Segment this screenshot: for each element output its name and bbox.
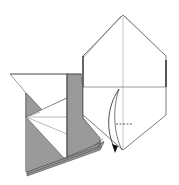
arrowhead-icon	[112, 144, 118, 153]
hexagon-body	[83, 15, 166, 150]
hexagon-flap	[82, 15, 167, 150]
left-edge-thickness	[82, 56, 84, 87]
right-edge-thickness	[165, 60, 167, 87]
origami-diagram	[0, 0, 179, 185]
